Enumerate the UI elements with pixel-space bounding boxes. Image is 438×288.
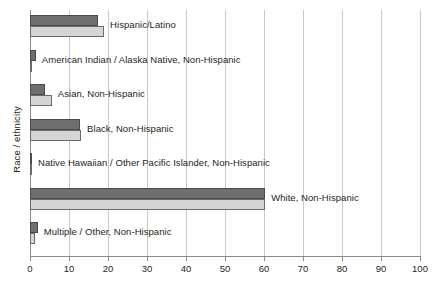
x-tick-label-80: 80	[337, 263, 348, 274]
x-tick-label-50: 50	[220, 263, 231, 274]
category-label: Multiple / Other, Non-Hispanic	[44, 226, 172, 237]
gridline-100	[420, 10, 421, 256]
x-tick-90	[381, 256, 382, 261]
bar-group: American Indian / Alaska Native, Non-His…	[30, 50, 420, 74]
bar-groups: Hispanic/LatinoAmerican Indian / Alaska …	[30, 10, 420, 256]
bar-chart: Race / ethnicity Hispanic/LatinoAmerican…	[0, 0, 438, 288]
x-tick-100	[420, 256, 421, 261]
bar	[30, 222, 38, 233]
bar-group: Multiple / Other, Non-Hispanic	[30, 222, 420, 246]
bar	[30, 119, 80, 130]
bar-group: White, Non-Hispanic	[30, 188, 420, 212]
x-tick-label-0: 0	[27, 263, 32, 274]
x-tick-label-30: 30	[142, 263, 153, 274]
x-tick-label-20: 20	[103, 263, 114, 274]
category-label: American Indian / Alaska Native, Non-His…	[42, 54, 241, 65]
category-label: White, Non-Hispanic	[271, 192, 359, 203]
bar	[30, 153, 32, 164]
x-tick-20	[108, 256, 109, 261]
bar	[30, 50, 36, 61]
x-tick-label-60: 60	[259, 263, 270, 274]
x-tick-label-40: 40	[181, 263, 192, 274]
x-tick-10	[69, 256, 70, 261]
bar-group: Asian, Non-Hispanic	[30, 84, 420, 108]
bar	[30, 15, 98, 26]
x-tick-label-90: 90	[376, 263, 387, 274]
x-tick-50	[225, 256, 226, 261]
x-tick-70	[303, 256, 304, 261]
category-label: Asian, Non-Hispanic	[58, 88, 145, 99]
bar-group: Black, Non-Hispanic	[30, 119, 420, 143]
bar-group: Native Hawaiian / Other Pacific Islander…	[30, 153, 420, 177]
x-tick-30	[147, 256, 148, 261]
bar	[30, 233, 35, 244]
bar	[30, 130, 81, 141]
bar	[30, 84, 45, 95]
plot-area: Hispanic/LatinoAmerican Indian / Alaska …	[30, 10, 420, 256]
x-tick-60	[264, 256, 265, 261]
bar	[30, 61, 32, 72]
bar	[30, 199, 265, 210]
category-label: Black, Non-Hispanic	[87, 123, 173, 134]
x-tick-0	[30, 256, 31, 261]
category-label: Native Hawaiian / Other Pacific Islander…	[38, 157, 270, 168]
bar	[30, 95, 52, 106]
bar	[30, 188, 265, 199]
category-label: Hispanic/Latino	[110, 19, 176, 30]
bar-group: Hispanic/Latino	[30, 15, 420, 39]
x-tick-label-100: 100	[412, 263, 428, 274]
x-tick-label-70: 70	[298, 263, 309, 274]
x-tick-80	[342, 256, 343, 261]
bar	[30, 26, 104, 37]
x-tick-40	[186, 256, 187, 261]
bar	[30, 164, 32, 175]
y-axis-title: Race / ethnicity	[11, 80, 22, 200]
x-tick-label-10: 10	[64, 263, 75, 274]
